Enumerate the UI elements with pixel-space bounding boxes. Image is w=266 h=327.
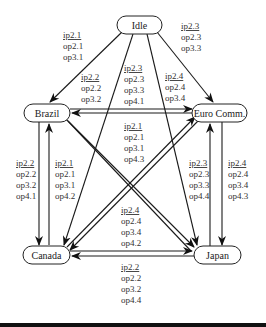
node-brazil[interactable]: Brazil: [24, 104, 70, 122]
state-transition-diagram: Idle Brazil Euro Comm. Canada Japan ip2.…: [0, 0, 266, 327]
label-japan-canada: ip2.2 op2.2 op3.2 op4.4: [121, 262, 142, 305]
svg-text:op3.3: op3.3: [181, 43, 202, 53]
svg-text:op2.2: op2.2: [16, 169, 36, 179]
svg-text:op2.3: op2.3: [189, 169, 210, 179]
label-brazil-euro: ip2.3 op2.3 op3.3 op4.1: [124, 63, 145, 106]
svg-text:ip2.3: ip2.3: [189, 158, 208, 168]
node-canada[interactable]: Canada: [23, 246, 70, 264]
svg-text:op3.4: op3.4: [121, 227, 142, 237]
svg-text:op3.3: op3.3: [124, 85, 145, 95]
node-idle[interactable]: Idle: [117, 16, 162, 34]
svg-text:ip2.2: ip2.2: [121, 262, 139, 272]
label-idle-brazil: ip2.1 op2.1 op3.1: [63, 30, 83, 62]
svg-text:ip2.1: ip2.1: [55, 158, 73, 168]
svg-text:op4.1: op4.1: [16, 191, 36, 201]
bottom-border: [0, 323, 266, 327]
svg-text:ip2.4: ip2.4: [228, 158, 247, 168]
label-japan-euro: ip2.3 op2.3 op3.3 op4.4: [189, 158, 210, 201]
svg-text:op3.2: op3.2: [16, 180, 36, 190]
svg-text:op2.1: op2.1: [124, 132, 144, 142]
svg-text:ip2.4: ip2.4: [121, 205, 140, 215]
node-euro-comm[interactable]: Euro Comm.: [192, 104, 247, 122]
svg-text:op2.4: op2.4: [228, 169, 249, 179]
svg-text:op2.2: op2.2: [81, 83, 101, 93]
svg-text:ip2.2: ip2.2: [81, 72, 99, 82]
svg-text:ip2.1: ip2.1: [63, 30, 81, 40]
label-canada-japan: ip2.4 op2.4 op3.4 op4.2: [121, 205, 142, 248]
label-euro-japan: ip2.4 op2.4 op3.4 op4.3: [228, 158, 249, 201]
svg-text:op3.1: op3.1: [124, 143, 144, 153]
svg-text:op2.4: op2.4: [121, 216, 142, 226]
svg-text:op3.1: op3.1: [63, 52, 83, 62]
svg-text:op4.2: op4.2: [55, 191, 75, 201]
svg-text:op2.4: op2.4: [165, 82, 186, 92]
label-idle-japan: ip2.4 op2.4 op3.4: [165, 71, 186, 103]
svg-text:op4.2: op4.2: [121, 238, 141, 248]
node-japan-label: Japan: [206, 250, 229, 261]
svg-text:op3.2: op3.2: [121, 284, 141, 294]
node-idle-label: Idle: [132, 20, 148, 31]
svg-text:op3.2: op3.2: [81, 94, 101, 104]
node-japan[interactable]: Japan: [194, 246, 241, 264]
label-cross-center: ip2.1 op2.1 op3.1 op4.3: [124, 121, 145, 164]
edge-idle-japan: [147, 34, 197, 245]
svg-text:op4.3: op4.3: [228, 191, 249, 201]
node-brazil-label: Brazil: [35, 108, 60, 119]
svg-text:op3.4: op3.4: [228, 180, 249, 190]
svg-text:op2.3: op2.3: [181, 32, 202, 42]
svg-text:op2.1: op2.1: [63, 41, 83, 51]
svg-text:op2.1: op2.1: [55, 169, 75, 179]
label-canada-brazil: ip2.1 op2.1 op3.1 op4.2: [55, 158, 75, 201]
svg-text:op4.1: op4.1: [124, 96, 144, 106]
svg-text:op2.3: op2.3: [124, 74, 145, 84]
svg-text:ip2.4: ip2.4: [165, 71, 184, 81]
svg-text:ip2.1: ip2.1: [124, 121, 142, 131]
svg-text:ip2.2: ip2.2: [16, 158, 34, 168]
svg-text:op4.4: op4.4: [121, 295, 142, 305]
label-brazil-canada: ip2.2 op2.2 op3.2 op4.1: [16, 158, 36, 201]
svg-text:op3.1: op3.1: [55, 180, 75, 190]
svg-text:ip2.3: ip2.3: [181, 21, 200, 31]
svg-text:op4.3: op4.3: [124, 154, 145, 164]
node-canada-label: Canada: [32, 250, 63, 261]
label-idle-canada: ip2.2 op2.2 op3.2: [81, 72, 101, 104]
node-euro-label: Euro Comm.: [194, 108, 246, 119]
svg-text:op3.3: op3.3: [189, 180, 210, 190]
svg-text:op3.4: op3.4: [165, 93, 186, 103]
svg-text:op4.4: op4.4: [189, 191, 210, 201]
svg-text:op2.2: op2.2: [121, 273, 141, 283]
label-idle-euro: ip2.3 op2.3 op3.3: [181, 21, 202, 53]
svg-text:ip2.3: ip2.3: [124, 63, 143, 73]
